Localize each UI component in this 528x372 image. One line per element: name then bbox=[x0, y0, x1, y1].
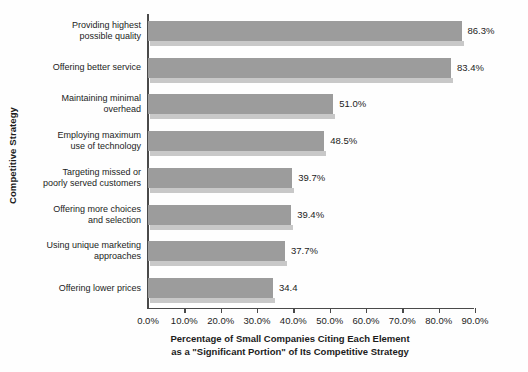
category-label-line: Using unique marketing bbox=[26, 240, 141, 251]
category-label-line: Targeting missed or bbox=[26, 167, 141, 178]
x-axis-tick-mark bbox=[330, 308, 331, 313]
bar[interactable] bbox=[148, 205, 291, 225]
x-axis-tick-label: 40.0% bbox=[280, 315, 307, 326]
category-label-line: Maintaining minimal bbox=[26, 93, 141, 104]
x-axis-tick-mark bbox=[366, 308, 367, 313]
bar-value-label: 83.4% bbox=[457, 62, 484, 73]
category-label: Using unique marketingapproaches bbox=[26, 240, 141, 262]
category-label-line: Offering more choices bbox=[26, 204, 141, 215]
x-axis-tick-mark bbox=[293, 308, 294, 313]
bar-shadow bbox=[150, 114, 335, 119]
bar-shadow bbox=[150, 41, 464, 46]
bar-value-label: 86.3% bbox=[468, 25, 495, 36]
bar[interactable] bbox=[148, 58, 451, 78]
x-axis-tick-label: 70.0% bbox=[389, 315, 416, 326]
category-label: Employing maximumuse of technology bbox=[26, 130, 141, 152]
bar-shadow bbox=[150, 188, 294, 193]
x-axis-tick-mark bbox=[221, 308, 222, 313]
bar-value-label: 39.4% bbox=[297, 209, 324, 220]
x-axis-tick-label: 90.0% bbox=[462, 315, 489, 326]
x-axis-tick-mark bbox=[475, 308, 476, 313]
bar-value-label: 39.7% bbox=[298, 172, 325, 183]
x-axis-tick-mark bbox=[402, 308, 403, 313]
bar[interactable] bbox=[148, 131, 324, 151]
bar-shadow bbox=[150, 261, 287, 266]
x-axis-tick-label: 30.0% bbox=[244, 315, 271, 326]
bar-shadow bbox=[150, 225, 293, 230]
category-label: Offering better service bbox=[26, 62, 141, 73]
category-label-line: Employing maximum bbox=[26, 130, 141, 141]
x-axis-title-line1: Percentage of Small Companies Citing Eac… bbox=[80, 332, 500, 345]
category-label-line: overhead bbox=[26, 104, 141, 115]
category-label-line: Offering better service bbox=[26, 62, 141, 73]
category-label-line: use of technology bbox=[26, 141, 141, 152]
category-label: Targeting missed orpoorly served custome… bbox=[26, 167, 141, 189]
category-label: Offering lower prices bbox=[26, 283, 141, 294]
y-axis-category-labels: Providing highestpossible qualityOfferin… bbox=[26, 14, 145, 308]
plot-area: 86.3%83.4%51.0%48.5%39.7%39.4%37.7%34.40… bbox=[148, 14, 478, 308]
category-label-line: poorly served customers bbox=[26, 178, 141, 189]
x-axis-title-line2: as a "Significant Portion" of Its Compet… bbox=[80, 345, 500, 358]
x-axis-tick-mark bbox=[257, 308, 258, 313]
bar[interactable] bbox=[148, 278, 273, 298]
bar-value-label: 48.5% bbox=[330, 135, 357, 146]
category-label: Maintaining minimaloverhead bbox=[26, 93, 141, 115]
x-axis-tick-label: 0.0% bbox=[137, 315, 159, 326]
bar[interactable] bbox=[148, 241, 285, 261]
x-axis-tick-label: 20.0% bbox=[207, 315, 234, 326]
bar-value-label: 37.7% bbox=[291, 245, 318, 256]
bar[interactable] bbox=[148, 21, 462, 41]
bar-value-label: 51.0% bbox=[339, 98, 366, 109]
x-axis-tick-mark bbox=[184, 308, 185, 313]
y-axis-title: Competitive Strategy bbox=[0, 0, 26, 310]
x-axis-line bbox=[147, 308, 474, 309]
bar[interactable] bbox=[148, 168, 292, 188]
x-axis-tick-mark bbox=[439, 308, 440, 313]
bar[interactable] bbox=[148, 94, 333, 114]
category-label-line: possible quality bbox=[26, 31, 141, 42]
bar-chart: Competitive Strategy Providing highestpo… bbox=[0, 0, 528, 372]
x-axis-tick-label: 50.0% bbox=[316, 315, 343, 326]
x-axis-tick-label: 80.0% bbox=[425, 315, 452, 326]
bar-shadow bbox=[150, 151, 326, 156]
bar-shadow bbox=[150, 298, 275, 303]
x-axis-tick-label: 60.0% bbox=[353, 315, 380, 326]
category-label-line: and selection bbox=[26, 215, 141, 226]
category-label-line: Offering lower prices bbox=[26, 283, 141, 294]
category-label: Offering more choicesand selection bbox=[26, 204, 141, 226]
bar-value-label: 34.4 bbox=[279, 282, 298, 293]
y-axis-title-text: Competitive Strategy bbox=[8, 106, 19, 203]
category-label: Providing highestpossible quality bbox=[26, 20, 141, 42]
x-axis-title: Percentage of Small Companies Citing Eac… bbox=[80, 332, 500, 358]
bar-shadow bbox=[150, 78, 453, 83]
x-axis-tick-label: 10.0% bbox=[171, 315, 198, 326]
category-label-line: Providing highest bbox=[26, 20, 141, 31]
category-label-line: approaches bbox=[26, 251, 141, 262]
